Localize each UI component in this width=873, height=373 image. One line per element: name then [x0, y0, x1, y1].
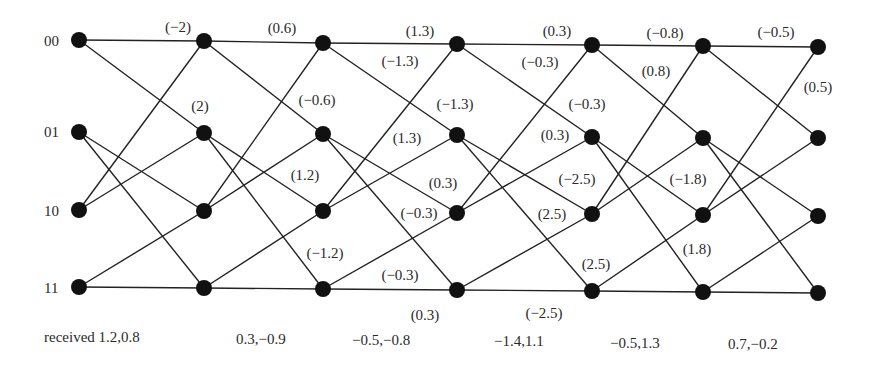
state-node-11 [449, 282, 465, 298]
state-label-00: 00 [44, 33, 59, 49]
trellis-branch [204, 288, 323, 289]
branch-metric-label: (−2) [165, 19, 191, 35]
branch-metric-label: (1.2) [291, 167, 320, 183]
state-node-00 [695, 38, 711, 54]
branch-metric-label: (0.3) [429, 175, 458, 191]
state-node-00 [71, 32, 87, 48]
branch-metric-label: (2.5) [582, 256, 611, 272]
trellis-branch [79, 287, 204, 288]
branch-metric-label: (−0.8) [646, 25, 683, 41]
branch-metric-label: (0.6) [268, 20, 297, 36]
trellis-branch [79, 40, 204, 133]
branch-metric-label: (−1.3) [436, 96, 473, 112]
state-node-01 [584, 129, 600, 145]
trellis-branch [79, 41, 204, 210]
state-node-11 [196, 280, 212, 296]
state-node-00 [196, 33, 212, 49]
state-node-00 [810, 39, 826, 55]
trellis-branch [79, 132, 204, 288]
state-node-11 [810, 285, 826, 301]
state-node-10 [695, 207, 711, 223]
state-label-01: 01 [44, 124, 59, 140]
state-node-11 [71, 279, 87, 295]
trellis-branch [457, 44, 592, 45]
received-value: −0.5,−0.8 [352, 332, 410, 348]
state-node-10 [810, 208, 826, 224]
state-node-10 [449, 205, 465, 221]
branch-metric-label: (1.3) [406, 23, 435, 39]
state-node-01 [196, 125, 212, 141]
trellis-branch [703, 138, 818, 293]
trellis-branch [204, 41, 323, 134]
state-node-01 [315, 126, 331, 142]
trellis-branch [79, 40, 204, 41]
trellis-branch [703, 46, 818, 138]
branch-metric-label: (−0.5) [757, 24, 794, 40]
branch-metric-label: (−1.3) [381, 53, 418, 69]
trellis-branch [457, 135, 592, 291]
state-node-01 [449, 127, 465, 143]
trellis-branch [703, 216, 818, 292]
received-value: 0.3,−0.9 [236, 331, 286, 347]
received-value: −1.4,1.1 [494, 333, 544, 349]
received-value: 0.7,−0.2 [728, 336, 778, 352]
trellis-branch [79, 211, 204, 287]
branch-metric-label: (0.8) [642, 63, 671, 79]
state-node-11 [584, 283, 600, 299]
state-node-01 [71, 124, 87, 140]
branch-metric-label: (2) [191, 98, 209, 114]
state-node-10 [71, 202, 87, 218]
trellis-branch [592, 291, 703, 292]
trellis-branch [204, 133, 323, 289]
branch-metric-label: (−2.5) [525, 305, 562, 321]
state-node-00 [584, 37, 600, 53]
branch-metric-label: (1.3) [393, 130, 422, 146]
branch-metric-label: (0.3) [543, 23, 572, 39]
branch-metric-label: (2.5) [538, 206, 567, 222]
branch-metric-label: (0.3) [541, 127, 570, 143]
trellis-branch [457, 290, 592, 291]
state-node-01 [810, 130, 826, 146]
state-node-00 [449, 36, 465, 52]
trellis-branch [457, 214, 592, 290]
branch-metric-label: (−0.3) [400, 205, 437, 221]
trellis-branch [703, 46, 818, 47]
branch-metric-label: (1.8) [683, 241, 712, 257]
state-label-11: 11 [44, 280, 58, 296]
trellis-branch [323, 289, 457, 290]
state-label-10: 10 [44, 203, 59, 219]
branch-metric-label: (−0.3) [568, 96, 605, 112]
branch-metric-label: (−0.6) [298, 92, 335, 108]
state-node-00 [315, 35, 331, 51]
state-node-10 [196, 203, 212, 219]
trellis-branch [323, 43, 457, 44]
branch-metric-label: (0.5) [804, 79, 833, 95]
trellis-branch [703, 47, 818, 215]
trellis-branch [703, 292, 818, 293]
trellis-branch [204, 43, 323, 211]
branch-metric-label: (−1.2) [306, 245, 343, 261]
trellis-nodes [71, 32, 826, 301]
state-node-11 [695, 284, 711, 300]
branch-metric-label: (−0.3) [381, 267, 418, 283]
branch-metric-label: (−0.3) [521, 54, 558, 70]
trellis-branch [204, 211, 323, 288]
trellis-branch [457, 45, 592, 213]
trellis-branch [592, 45, 703, 138]
state-node-10 [584, 206, 600, 222]
branch-metric-label: (0.3) [411, 307, 440, 323]
branch-metric-label: (−2.5) [558, 171, 595, 187]
state-node-11 [315, 281, 331, 297]
received-value: received 1.2,0.8 [44, 329, 140, 345]
trellis-branch [204, 41, 323, 43]
state-node-10 [315, 203, 331, 219]
state-node-01 [695, 130, 711, 146]
received-value: −0.5,1.3 [610, 335, 660, 351]
branch-metric-label: (−1.8) [669, 171, 706, 187]
trellis-branch [592, 45, 703, 46]
